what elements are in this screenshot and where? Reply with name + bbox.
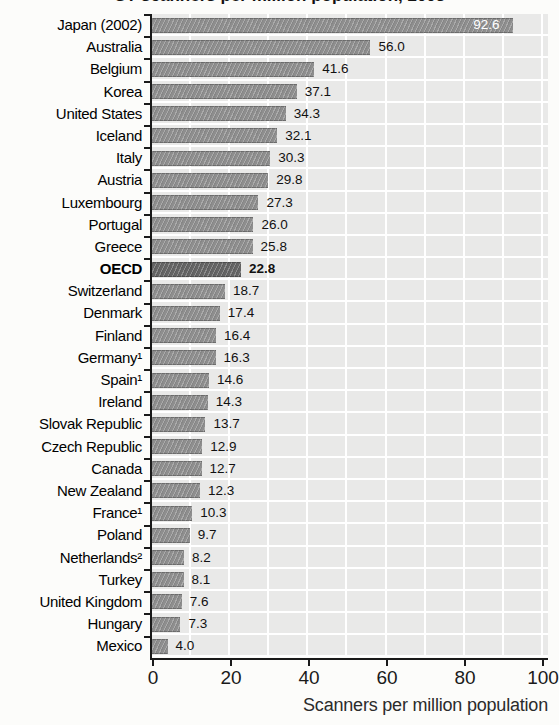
- bar-track: 10.3: [152, 502, 548, 524]
- bar-value: 12.3: [208, 480, 234, 502]
- bar-track: 16.4: [152, 325, 548, 347]
- bar-value: 32.1: [285, 125, 311, 147]
- bar-track: 41.6: [152, 58, 548, 80]
- bar-value: 14.3: [216, 391, 242, 413]
- bar-value: 17.4: [228, 302, 254, 324]
- bar-row: United States34.3: [0, 103, 548, 125]
- bar-value: 8.1: [192, 569, 211, 591]
- bar-track: 16.3: [152, 347, 548, 369]
- bar: [152, 62, 314, 77]
- bar: [152, 461, 202, 476]
- bar-value: 41.6: [322, 58, 348, 80]
- bar-label: Ireland: [0, 391, 152, 413]
- bar-label: Japan (2002): [0, 14, 152, 36]
- bar-row: Hungary7.3: [0, 613, 548, 635]
- bar-label: Finland: [0, 325, 152, 347]
- bar-row: New Zealand12.3: [0, 480, 548, 502]
- bar-label: Austria: [0, 169, 152, 191]
- x-axis-caption: Scanners per million population: [303, 695, 548, 716]
- bar-chart-figure: CT scanners per million population, 2003…: [0, 0, 559, 725]
- bar-track: 18.7: [152, 280, 548, 302]
- bar-label: Spain¹: [0, 369, 152, 391]
- bar-track: 56.0: [152, 36, 548, 58]
- bar-row: Netherlands²8.2: [0, 547, 548, 569]
- bar-track: 30.3: [152, 147, 548, 169]
- bar-row: United Kingdom7.6: [0, 591, 548, 613]
- bar-row: Belgium41.6: [0, 58, 548, 80]
- x-axis-tick-label: 100: [527, 667, 559, 689]
- bar-value: 34.3: [294, 103, 320, 125]
- bar-row: Italy30.3: [0, 147, 548, 169]
- x-axis-tick-label: 80: [454, 667, 475, 689]
- bar-label: Belgium: [0, 58, 152, 80]
- bar: [152, 550, 184, 565]
- bar: [152, 262, 241, 277]
- bar-value: 25.8: [261, 236, 287, 258]
- bar: [152, 40, 370, 55]
- cropped-title-text: CT scanners per million population, 2003: [114, 0, 446, 5]
- bar-track: 37.1: [152, 81, 548, 103]
- bar-row: Mexico4.0: [0, 635, 548, 657]
- y-axis-line: [150, 14, 152, 660]
- bar-row: Switzerland18.7: [0, 280, 548, 302]
- x-axis-tick: [464, 660, 466, 666]
- bar-label: Greece: [0, 236, 152, 258]
- bar-row: Poland9.7: [0, 524, 548, 546]
- bar-label: United Kingdom: [0, 591, 152, 613]
- bar-value: 22.8: [249, 258, 275, 280]
- bar: [152, 106, 286, 121]
- bar-label: Germany¹: [0, 347, 152, 369]
- bar-row: Korea37.1: [0, 81, 548, 103]
- bar-track: 12.9: [152, 436, 548, 458]
- bar-value: 16.4: [224, 325, 250, 347]
- bar-track: 14.6: [152, 369, 548, 391]
- bar-label: Luxembourg: [0, 192, 152, 214]
- bar-track: 14.3: [152, 391, 548, 413]
- bar-value: 37.1: [305, 81, 331, 103]
- bar-row: Slovak Republic13.7: [0, 413, 548, 435]
- bar: [152, 350, 216, 365]
- bar-label: Netherlands²: [0, 547, 152, 569]
- x-axis-tick-label: 0: [148, 667, 159, 689]
- bar-label: Turkey: [0, 569, 152, 591]
- bar-track: 7.3: [152, 613, 548, 635]
- x-axis-tick: [308, 660, 310, 666]
- bar-row: Austria29.8: [0, 169, 548, 191]
- bar-row: Canada12.7: [0, 458, 548, 480]
- bar-row: France¹10.3: [0, 502, 548, 524]
- bar-label: Denmark: [0, 302, 152, 324]
- bar-value: 9.7: [198, 524, 217, 546]
- bar-track: 22.8: [152, 258, 548, 280]
- bar-track: 9.7: [152, 524, 548, 546]
- bar-label: Korea: [0, 81, 152, 103]
- bar-value: 4.0: [176, 635, 195, 657]
- bar: [152, 239, 253, 254]
- bar-label: Hungary: [0, 613, 152, 635]
- bar-label: Switzerland: [0, 280, 152, 302]
- bar: [152, 528, 190, 543]
- bar-value: 12.9: [210, 436, 236, 458]
- bar-label: Canada: [0, 458, 152, 480]
- bar-label: Mexico: [0, 635, 152, 657]
- x-axis-tick-label: 20: [220, 667, 241, 689]
- bar-label: Slovak Republic: [0, 413, 152, 435]
- bar-row: OECD22.8: [0, 258, 548, 280]
- bar: [152, 639, 168, 654]
- bar-label: Czech Republic: [0, 436, 152, 458]
- bar-track: 13.7: [152, 413, 548, 435]
- bar-track: 4.0: [152, 635, 548, 657]
- x-axis-tick-label: 60: [376, 667, 397, 689]
- bar-track: 32.1: [152, 125, 548, 147]
- bar-track: 92.6: [152, 14, 548, 36]
- bar: [152, 395, 208, 410]
- bar-label: Italy: [0, 147, 152, 169]
- bar: [152, 195, 258, 210]
- bar-value: 12.7: [210, 458, 236, 480]
- bar-row: Germany¹16.3: [0, 347, 548, 369]
- bar-track: 25.8: [152, 236, 548, 258]
- bar-label: Portugal: [0, 214, 152, 236]
- bar-row: Iceland32.1: [0, 125, 548, 147]
- bar-value: 56.0: [378, 36, 404, 58]
- bar-rows: Japan (2002)92.6Australia56.0Belgium41.6…: [0, 14, 548, 657]
- bar-row: Greece25.8: [0, 236, 548, 258]
